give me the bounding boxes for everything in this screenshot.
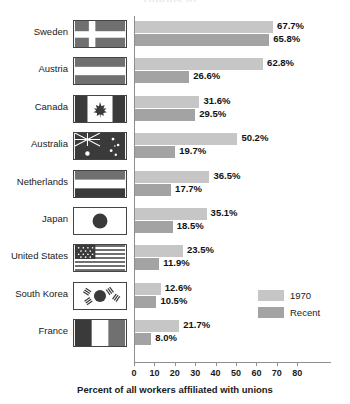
bar-recent — [135, 184, 171, 196]
union-membership-bar-chart: Unions in... Sweden67.7%65.8%Austria62.8… — [0, 0, 350, 404]
bar-recent — [135, 296, 156, 308]
bar-value-label: 29.5% — [199, 108, 226, 120]
chart-row: Austria62.8%26.6% — [0, 56, 350, 86]
chart-row: Japan35.1%18.5% — [0, 206, 350, 236]
japan-flag-icon — [73, 207, 127, 235]
bar-value-label: 21.7% — [183, 319, 210, 331]
legend-label: Recent — [290, 305, 320, 320]
bar-value-label: 19.7% — [179, 145, 206, 157]
bar-1970 — [135, 171, 209, 183]
legend-swatch — [258, 307, 284, 318]
legend-label: 1970 — [290, 288, 311, 303]
bar-recent — [135, 34, 269, 46]
country-label: Sweden — [34, 26, 68, 37]
x-axis-tick — [195, 362, 196, 366]
netherlands-flag-icon — [73, 170, 127, 198]
bar-1970 — [135, 283, 161, 295]
chart-row: Netherlands36.5%17.7% — [0, 169, 350, 199]
country-label: Netherlands — [17, 176, 68, 187]
united-states-flag-icon — [73, 244, 127, 272]
bar-1970 — [135, 245, 183, 257]
bar-recent — [135, 258, 159, 270]
x-axis-tick — [297, 362, 298, 366]
bar-value-label: 23.5% — [187, 244, 214, 256]
bar-1970 — [135, 133, 237, 145]
bar-recent — [135, 109, 195, 121]
country-label: Austria — [38, 63, 68, 74]
legend-swatch — [258, 290, 284, 301]
chart-row: United States23.5%11.9% — [0, 243, 350, 273]
australia-flag-icon — [73, 132, 127, 160]
canada-flag-icon — [73, 95, 127, 123]
x-axis-tick — [134, 362, 135, 366]
austria-flag-icon — [73, 57, 127, 85]
chart-row: Sweden67.7%65.8% — [0, 19, 350, 49]
bar-1970 — [135, 58, 263, 70]
bar-value-label: 26.6% — [193, 70, 220, 82]
plot-area: Sweden67.7%65.8%Austria62.8%26.6%Canada3… — [0, 0, 350, 404]
bar-value-label: 31.6% — [203, 95, 230, 107]
x-axis-tick — [236, 362, 237, 366]
bar-1970 — [135, 320, 179, 332]
bar-1970 — [135, 96, 199, 108]
bar-recent — [135, 333, 151, 345]
south-korea-flag-icon — [73, 282, 127, 310]
bar-1970 — [135, 208, 207, 220]
bar-value-label: 11.9% — [163, 257, 189, 269]
bar-value-label: 67.7% — [277, 20, 304, 32]
x-axis-tick — [154, 362, 155, 366]
country-label: Japan — [42, 213, 68, 224]
country-label: France — [38, 325, 68, 336]
country-label: South Korea — [15, 288, 68, 299]
country-label: Canada — [35, 101, 68, 112]
bar-value-label: 50.2% — [241, 132, 268, 144]
bar-value-label: 10.5% — [160, 295, 187, 307]
country-label: Australia — [31, 138, 68, 149]
x-axis-tick-label: 80 — [285, 368, 309, 378]
chart-row: Canada31.6%29.5% — [0, 94, 350, 124]
bar-value-label: 36.5% — [213, 170, 240, 182]
bar-value-label: 62.8% — [267, 57, 294, 69]
chart-row: France21.7%8.0% — [0, 318, 350, 348]
france-flag-icon — [73, 319, 127, 347]
bar-recent — [135, 146, 175, 158]
bar-value-label: 12.6% — [165, 282, 192, 294]
x-axis-tick — [277, 362, 278, 366]
bar-value-label: 8.0% — [155, 332, 177, 344]
x-axis-tick — [175, 362, 176, 366]
bar-recent — [135, 221, 173, 233]
x-axis-line — [134, 362, 331, 363]
bar-recent — [135, 71, 189, 83]
bar-1970 — [135, 21, 273, 33]
x-axis-tick — [216, 362, 217, 366]
bar-value-label: 65.8% — [273, 33, 300, 45]
bar-value-label: 17.7% — [175, 183, 202, 195]
sweden-flag-icon — [73, 20, 127, 48]
x-axis-tick — [256, 362, 257, 366]
x-axis-title: Percent of all workers affiliated with u… — [0, 384, 350, 395]
chart-row: Australia50.2%19.7% — [0, 131, 350, 161]
country-label: United States — [11, 250, 68, 261]
bar-value-label: 18.5% — [177, 220, 204, 232]
bar-value-label: 35.1% — [211, 207, 238, 219]
